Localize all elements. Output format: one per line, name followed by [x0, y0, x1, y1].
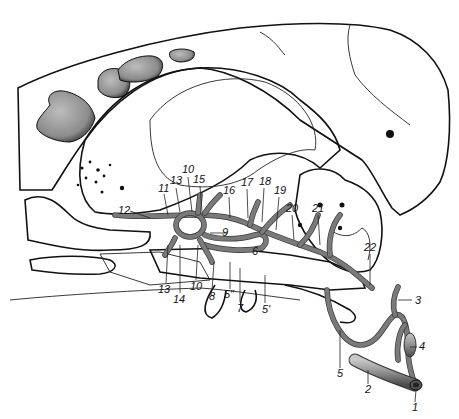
- cranial-inner-area: [150, 79, 316, 187]
- label-19: 19: [274, 184, 286, 196]
- mass-4: [169, 49, 194, 62]
- vessel-lumen-inner: [413, 383, 419, 388]
- foramen-dot: [340, 203, 345, 208]
- label-22: 22: [363, 241, 376, 253]
- label-11: 11: [158, 182, 169, 194]
- label-15: 15: [193, 173, 206, 185]
- carotid-sinus: [404, 333, 416, 357]
- cribriform-dots: [77, 161, 125, 194]
- mass-1: [37, 91, 95, 142]
- label-7: 7: [237, 302, 244, 314]
- label-12: 12: [118, 204, 130, 216]
- foramen-dot: [386, 130, 394, 138]
- suture-line: [348, 25, 410, 125]
- label-20: 20: [285, 202, 299, 214]
- suture-line: [260, 32, 285, 55]
- branch: [205, 195, 220, 213]
- label-14: 14: [173, 293, 185, 305]
- mandible-outline: [285, 285, 355, 323]
- branch: [198, 195, 200, 213]
- label-2: 2: [364, 383, 371, 395]
- label-6: 6: [252, 245, 259, 257]
- label-10-lower: 10: [190, 280, 203, 292]
- label-13-upper: 13: [170, 174, 183, 186]
- label-21: 21: [311, 202, 324, 214]
- label-18: 18: [259, 175, 272, 187]
- label-17: 17: [241, 176, 254, 188]
- foramen-dot: [298, 223, 302, 227]
- anatomical-figure: 1 2 3 4 5 5' 5" 6 7 8 9 10 10 11 12 13 1…: [0, 0, 459, 419]
- label-1: 1: [412, 401, 418, 413]
- label-9: 9: [222, 226, 228, 238]
- branch-3: [394, 287, 398, 315]
- label-5-prime: 5': [262, 303, 271, 315]
- label-13-lower: 13: [158, 283, 171, 295]
- label-5-double-prime: 5": [224, 288, 235, 300]
- foramen-dot: [338, 226, 342, 230]
- label-4: 4: [419, 340, 425, 352]
- common-carotid: [355, 360, 415, 385]
- vault-masses: [37, 49, 394, 142]
- label-16: 16: [223, 184, 236, 196]
- label-3: 3: [415, 294, 422, 306]
- label-8: 8: [209, 290, 216, 302]
- label-5: 5: [337, 367, 344, 379]
